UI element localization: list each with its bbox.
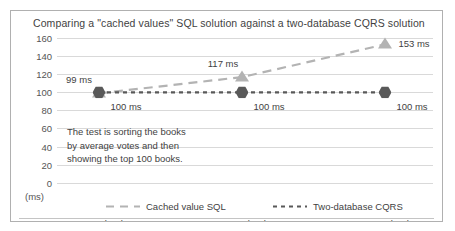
data-label-cached-sql-1: 99 ms [66,74,92,85]
data-label-cqrs-1: 100 ms [110,101,141,112]
chart-annotation: The test is sorting the books by average… [67,125,186,166]
legend-swatch-two-database-cqrs [273,202,307,211]
y-axis-tick-160: 160 [36,33,52,44]
y-axis-tick-100: 100 [36,87,52,98]
legend-item-cached-value-sql: Cached value SQL [106,201,226,212]
series-line-cached-value-sql [99,44,385,93]
chart-container: Comparing a "cached values" SQL solution… [10,10,443,222]
y-axis-tick-120: 120 [36,69,52,80]
data-point-cached-sql-2 [235,70,249,81]
data-label-cqrs-3: 100 ms [396,101,427,112]
data-label-cqrs-2: 100 ms [253,101,284,112]
annotation-line-3: showing the top 100 books. [67,152,186,166]
y-axis-tick-60: 60 [41,123,52,134]
y-axis-tick-80: 80 [41,105,52,116]
data-point-cached-sql-3 [378,38,392,49]
annotation-line-1: The test is sorting the books [67,125,186,139]
legend-swatch-cached-value-sql [106,202,140,211]
annotation-line-2: by average votes and then [67,139,186,153]
chart-legend: Cached value SQL Two-database CQRS [11,201,443,217]
y-axis-tick-0: 0 [47,178,52,189]
data-label-cached-sql-2: 117 ms [208,58,238,69]
legend-divider [19,218,434,219]
y-axis-tick-20: 20 [41,160,52,171]
chart-title: Comparing a "cached values" SQL solution… [33,17,425,29]
y-axis-tick-140: 140 [36,51,52,62]
gridline-0 [57,183,433,184]
legend-item-two-database-cqrs: Two-database CQRS [273,201,403,212]
data-label-cached-sql-3: 153 ms [398,38,429,49]
legend-label-cached-value-sql: Cached value SQL [146,201,226,212]
y-axis-tick-40: 40 [41,142,52,153]
legend-label-two-database-cqrs: Two-database CQRS [313,201,403,212]
